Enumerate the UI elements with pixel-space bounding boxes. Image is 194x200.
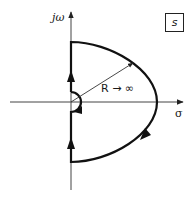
s-plane-label-box: s <box>165 13 184 32</box>
s-plane-label: s <box>172 16 178 29</box>
imaginary-axis-label: jω <box>52 12 64 23</box>
arrow-up-lower-icon <box>67 137 75 149</box>
arrow-up-upper-icon <box>67 70 75 82</box>
real-axis-label: σ <box>175 108 183 119</box>
radius-label: R → ∞ <box>101 83 134 94</box>
